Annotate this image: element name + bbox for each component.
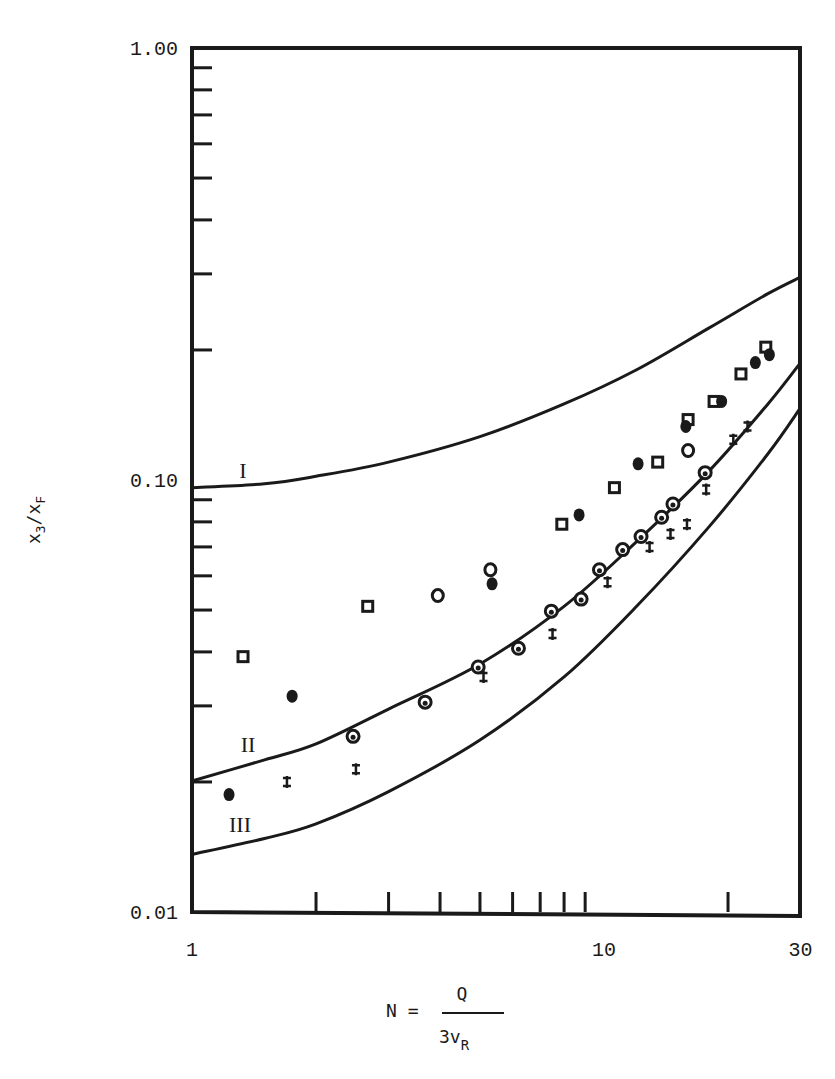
marker-cross [666,528,674,540]
marker-filled-circle [750,356,761,369]
marker-cross [480,671,488,683]
x-tick-label: 1 [186,939,198,962]
chart: 110301.000.100.01 IIIIII x3/xF N = Q 3vR [0,0,835,1079]
marker-filled-circle [487,577,498,590]
marker-square [736,369,746,379]
data-markers [224,342,775,801]
svg-text:N =: N = [386,1000,419,1021]
x-tick-label: 30 [789,939,813,962]
marker-open-circle [485,564,496,576]
y-tick-label: 0.01 [130,902,178,925]
curve-labels: IIIIII [229,458,255,837]
marker-cross [683,518,691,530]
curve-label-iii: III [229,812,251,837]
y-tick-label: 1.00 [130,38,178,61]
marker-cross [646,541,654,553]
curve-label-i: I [239,458,246,483]
marker-square [238,652,248,662]
marker-cross [604,576,612,588]
marker-open-circle [683,445,694,457]
svg-text:Q: Q [457,983,468,1004]
marker-filled-circle [287,690,298,703]
marker-filled-circle [633,457,644,470]
marker-open-circle [432,590,443,602]
marker-filled-circle [764,348,775,361]
marker-cross [549,628,557,640]
x-axis-title: N = Q 3vR [386,983,504,1053]
marker-square [363,601,373,611]
marker-cross [283,776,291,788]
y-axis-title: x3/xF [23,496,48,544]
svg-text:x3/xF: x3/xF [23,496,48,544]
curve-label-ii: II [241,732,256,757]
marker-filled-circle [680,420,691,433]
axis-ticks [192,68,728,912]
marker-filled-circle [224,788,235,801]
marker-square [557,519,567,529]
marker-filled-circle [716,395,727,408]
y-tick-label: 0.10 [130,470,178,493]
marker-cross [702,484,710,496]
marker-filled-circle [574,508,585,521]
svg-text:3vR: 3vR [439,1026,470,1053]
curve-i [192,277,801,488]
marker-square [653,457,663,467]
x-tick-label: 10 [592,939,616,962]
marker-cross [352,763,360,775]
marker-square [609,483,619,493]
